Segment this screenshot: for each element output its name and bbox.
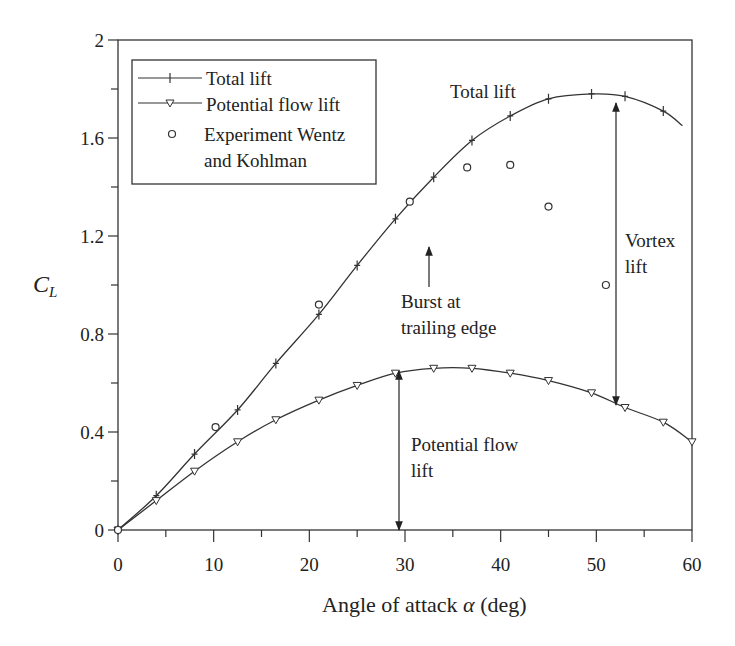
legend-item-experiment-line2: and Kohlman — [204, 150, 307, 171]
x-tick-label: 30 — [396, 554, 415, 575]
y-tick-label: 0.8 — [80, 324, 104, 345]
legend: Total lift Potential flow lift Experimen… — [132, 60, 376, 184]
plus-marker-icon — [507, 111, 513, 121]
legend-item-experiment: Experiment Wentz — [204, 124, 345, 145]
circle-marker-icon — [115, 527, 122, 534]
plus-marker-icon — [589, 89, 595, 99]
y-tick-label: 1.6 — [80, 128, 104, 149]
y-tick-label: 2 — [95, 30, 105, 51]
plus-marker-icon — [192, 449, 198, 459]
circle-marker-icon — [212, 424, 219, 431]
x-tick-label: 20 — [300, 554, 319, 575]
circle-marker-icon — [315, 301, 322, 308]
vortex-annotation-line2: lift — [625, 256, 648, 277]
circle-marker-icon — [602, 282, 609, 289]
plus-marker-icon — [392, 214, 398, 224]
x-tick-label: 40 — [491, 554, 510, 575]
triangle-marker-icon — [659, 419, 667, 426]
potential-annotation-line2: lift — [411, 460, 434, 481]
circle-marker-icon — [545, 203, 552, 210]
triangle-marker-icon — [688, 439, 696, 446]
burst-annotation-line1: Burst at — [401, 291, 461, 312]
triangle-marker-icon — [234, 439, 242, 446]
y-axis: 00.40.81.21.62 — [80, 30, 118, 541]
plus-marker-icon — [660, 106, 666, 116]
plus-marker-icon — [469, 135, 475, 145]
triangle-marker-icon — [191, 468, 199, 475]
x-tick-label: 10 — [204, 554, 223, 575]
y-tick-label: 0 — [95, 520, 105, 541]
x-tick-label: 0 — [113, 554, 123, 575]
plus-marker-icon — [431, 172, 437, 182]
total-lift-annotation: Total lift — [450, 81, 516, 102]
y-tick-label: 1.2 — [80, 226, 104, 247]
circle-marker-icon — [169, 131, 176, 138]
legend-item-potential-lift: Potential flow lift — [206, 94, 341, 115]
potential-annotation-line1: Potential flow — [411, 434, 518, 455]
y-tick-label: 0.4 — [80, 422, 104, 443]
series-line — [118, 368, 692, 530]
x-tick-label: 50 — [587, 554, 606, 575]
circle-marker-icon — [464, 164, 471, 171]
vortex-annotation-line1: Vortex — [625, 230, 676, 251]
legend-item-total-lift: Total lift — [206, 68, 272, 89]
circle-marker-icon — [406, 198, 413, 205]
burst-annotation-line2: trailing edge — [401, 317, 497, 338]
lift-coefficient-chart: 00.40.81.21.62 0102030405060 Total lift … — [0, 0, 735, 646]
triangle-marker-icon — [272, 417, 280, 424]
x-axis-label: Angle of attack α (deg) — [322, 592, 527, 617]
x-tick-label: 60 — [683, 554, 702, 575]
x-axis: 0102030405060 — [113, 530, 701, 575]
plus-marker-icon — [235, 405, 241, 415]
circle-marker-icon — [507, 161, 514, 168]
y-axis-label: CL — [33, 271, 57, 300]
plus-marker-icon — [622, 91, 628, 101]
plus-marker-icon — [546, 94, 552, 104]
